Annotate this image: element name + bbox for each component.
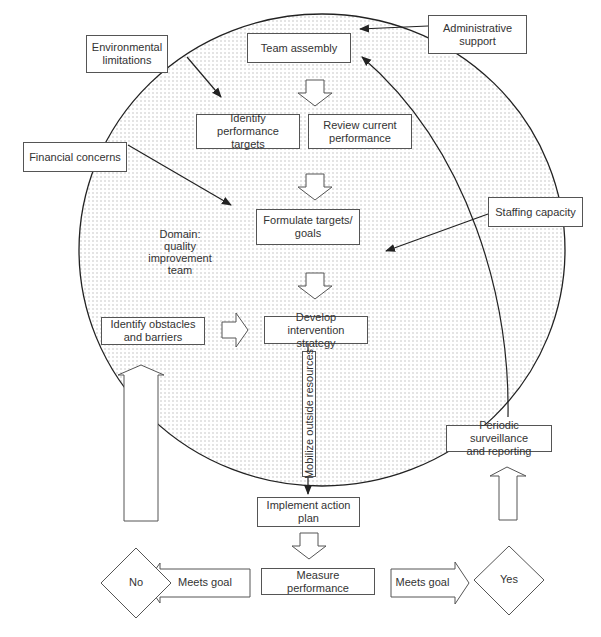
domain-label: Domain: quality improvement team <box>140 228 220 276</box>
right-meets-goal-label: Meets goal <box>390 576 455 588</box>
measure-performance-box: Measure performance <box>261 568 375 595</box>
up-arrow-left <box>118 365 164 521</box>
environmental-limitations-box: Environmentallimitations <box>86 35 168 73</box>
develop-intervention-strategy-box: Develop interventionstrategy <box>264 316 368 344</box>
identify-performance-targets-box: Identify performancetargets <box>196 114 300 149</box>
formulate-targets-goals-box: Formulate targets/goals <box>256 209 360 245</box>
left-meets-goal-label: Meets goal <box>170 576 240 588</box>
no-label: No <box>121 576 151 588</box>
team-assembly-box: Team assembly <box>247 33 351 63</box>
down-arrow-4 <box>292 533 326 559</box>
administrative-support-box: Administrativesupport <box>428 15 527 54</box>
up-arrow-right <box>490 467 526 520</box>
staffing-capacity-box: Staffing capacity <box>488 197 583 227</box>
periodic-surveillance-box: Periodic surveillanceand reporting <box>446 425 552 452</box>
identify-obstacles-box: Identify obstaclesand barriers <box>101 317 205 345</box>
review-current-performance-box: Review currentperformance <box>308 114 412 149</box>
mobilize-outside-resources-box: Mobilize outside resources <box>302 351 316 477</box>
yes-label: Yes <box>494 573 524 585</box>
implement-action-plan-box: Implement actionplan <box>257 497 360 527</box>
financial-concerns-box: Financial concerns <box>23 142 127 172</box>
